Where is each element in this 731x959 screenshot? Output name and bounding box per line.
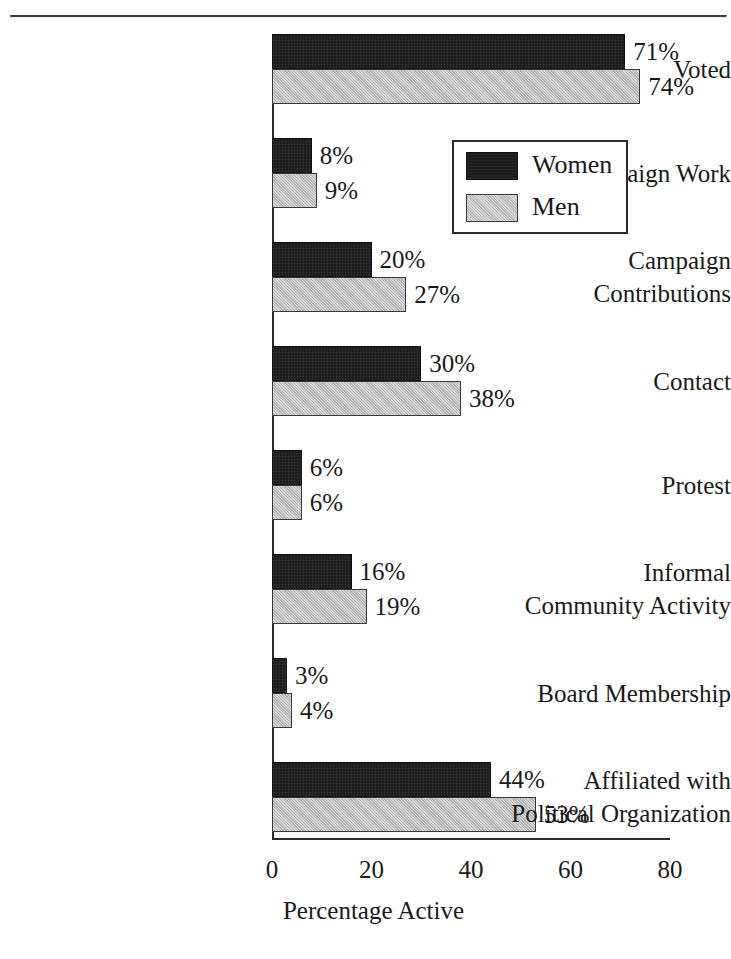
bar-men [272,277,406,312]
bar-women [272,554,352,589]
bar-men [272,381,461,416]
grouped-bar-chart: 71%74%8%9%20%27%30%38%6%6%16%19%3%4%44%5… [0,0,731,959]
bar-value-label: 9% [325,173,358,208]
bar-men [272,485,302,520]
bar-men [272,693,292,728]
x-tick-label: 20 [332,856,412,884]
category-label: Board Membership [469,677,731,710]
bar-women [272,242,372,277]
bar-women [272,658,287,693]
x-tick-label: 0 [232,856,312,884]
bar-women [272,346,421,381]
legend-label-women: Women [532,149,612,181]
bar-value-label: 4% [300,693,333,728]
bar-value-label: 27% [414,277,460,312]
bar-women [272,138,312,173]
bar-value-label: 8% [320,138,353,173]
category-label: Campaign Contributions [469,244,731,310]
category-label: Voted [469,53,731,86]
chart-legend: Women Men [452,140,628,234]
bar-women [272,762,491,797]
category-label: Informal Community Activity [469,556,731,622]
bar-value-label: 20% [380,242,426,277]
bar-value-label: 6% [310,485,343,520]
category-label: Contact [469,365,731,398]
legend-swatch-men-icon [466,194,518,222]
x-axis-line [272,838,670,840]
legend-swatch-women-icon [466,152,518,180]
x-tick-label: 80 [630,856,710,884]
x-tick-label: 60 [531,856,611,884]
x-tick-label: 40 [431,856,511,884]
category-label: Affiliated with Political Organization [469,764,731,830]
bar-value-label: 3% [295,658,328,693]
bar-value-label: 6% [310,450,343,485]
x-axis-title-text: Percentage Active [283,897,464,924]
bar-men [272,173,317,208]
bar-women [272,450,302,485]
x-axis-title: Percentage Active [0,897,731,925]
bar-men [272,589,367,624]
bar-value-label: 19% [375,589,421,624]
category-label: Protest [469,469,731,502]
bar-value-label: 16% [360,554,406,589]
legend-label-men: Men [532,191,580,223]
